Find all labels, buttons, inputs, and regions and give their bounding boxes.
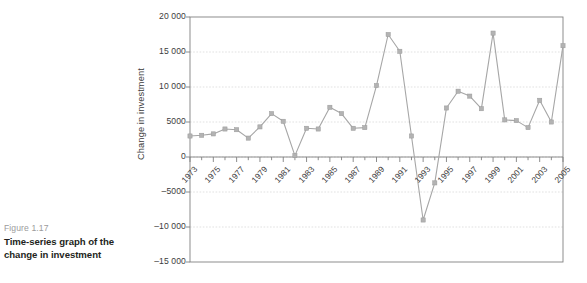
data-point-marker <box>246 136 250 140</box>
figure-page: Figure 1.17 Time-series graph of the cha… <box>0 0 587 283</box>
data-point-marker <box>491 31 495 35</box>
data-point-marker <box>316 127 320 131</box>
data-point-marker <box>211 132 215 136</box>
data-point-marker <box>328 105 332 109</box>
data-point-marker <box>304 126 308 130</box>
data-point-marker <box>468 94 472 98</box>
data-point-marker <box>421 218 425 222</box>
data-point-marker <box>503 118 507 122</box>
data-point-marker <box>351 126 355 130</box>
data-point-marker <box>526 126 530 130</box>
data-point-marker <box>235 128 239 132</box>
data-point-marker <box>538 98 542 102</box>
data-point-marker <box>223 127 227 131</box>
data-point-marker <box>188 134 192 138</box>
data-point-marker <box>339 112 343 116</box>
plot-canvas <box>0 0 587 283</box>
data-point-marker <box>479 107 483 111</box>
data-point-marker <box>386 32 390 36</box>
data-point-marker <box>444 106 448 110</box>
data-point-marker <box>269 112 273 116</box>
data-point-marker <box>293 154 297 158</box>
data-point-marker <box>561 44 565 48</box>
data-point-marker <box>200 133 204 137</box>
data-point-marker <box>409 134 413 138</box>
time-series-chart: Change in investment 20 00015 00010 0005… <box>0 0 587 283</box>
data-point-marker <box>258 125 262 129</box>
data-point-marker <box>514 119 518 123</box>
data-point-marker <box>549 120 553 124</box>
data-point-marker <box>374 84 378 88</box>
data-point-marker <box>456 89 460 93</box>
data-point-marker <box>363 126 367 130</box>
data-point-marker <box>398 49 402 53</box>
data-point-marker <box>281 119 285 123</box>
